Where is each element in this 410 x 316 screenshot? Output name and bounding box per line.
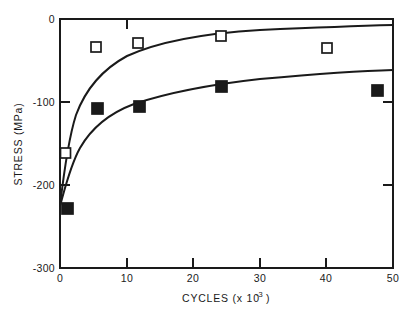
y-tick-label-0: 0 xyxy=(49,13,55,25)
x-axis-tick-labels: 0 10 20 30 40 50 xyxy=(57,272,399,284)
y-tick-label-minus-300: -300 xyxy=(33,262,55,274)
x-axis-title-group: CYCLES (x 10 -3 ) xyxy=(182,290,270,304)
chart-figure: 0 -100 -200 -300 0 10 20 30 40 50 STRESS… xyxy=(0,0,410,316)
data-point xyxy=(134,101,145,112)
y-tick-label-minus-200: -200 xyxy=(33,179,55,191)
x-tick-label-10: 10 xyxy=(121,272,133,284)
y-tick-label-minus-100: -100 xyxy=(33,96,55,108)
x-tick-label-20: 20 xyxy=(187,272,199,284)
chart-svg: 0 -100 -200 -300 0 10 20 30 40 50 STRESS… xyxy=(0,0,410,316)
plot-frame xyxy=(60,19,393,268)
x-tick-label-40: 40 xyxy=(320,272,332,284)
y-axis-ticks xyxy=(60,19,393,268)
data-point xyxy=(133,38,143,48)
data-point xyxy=(62,203,73,214)
data-point xyxy=(61,148,71,158)
y-axis-title: STRESS (MPa) xyxy=(12,102,24,185)
data-point xyxy=(91,42,101,52)
data-point xyxy=(322,43,332,53)
y-axis-tick-labels: 0 -100 -200 -300 xyxy=(33,13,55,274)
plot-area-border xyxy=(60,19,393,268)
filled-square-series xyxy=(62,81,383,214)
x-axis-ticks xyxy=(60,19,393,268)
fit-curves xyxy=(60,25,393,206)
x-tick-label-0: 0 xyxy=(57,272,63,284)
x-axis-title-prefix: CYCLES (x 10 xyxy=(182,292,260,304)
x-axis-title-suffix: ) xyxy=(266,292,270,304)
data-point xyxy=(216,81,227,92)
open-square-series xyxy=(61,31,333,158)
data-point xyxy=(372,85,383,96)
data-point xyxy=(92,103,103,114)
x-tick-label-50: 50 xyxy=(387,272,399,284)
data-point xyxy=(216,31,226,41)
x-axis-title-exponent: -3 xyxy=(256,290,263,299)
x-tick-label-30: 30 xyxy=(254,272,266,284)
